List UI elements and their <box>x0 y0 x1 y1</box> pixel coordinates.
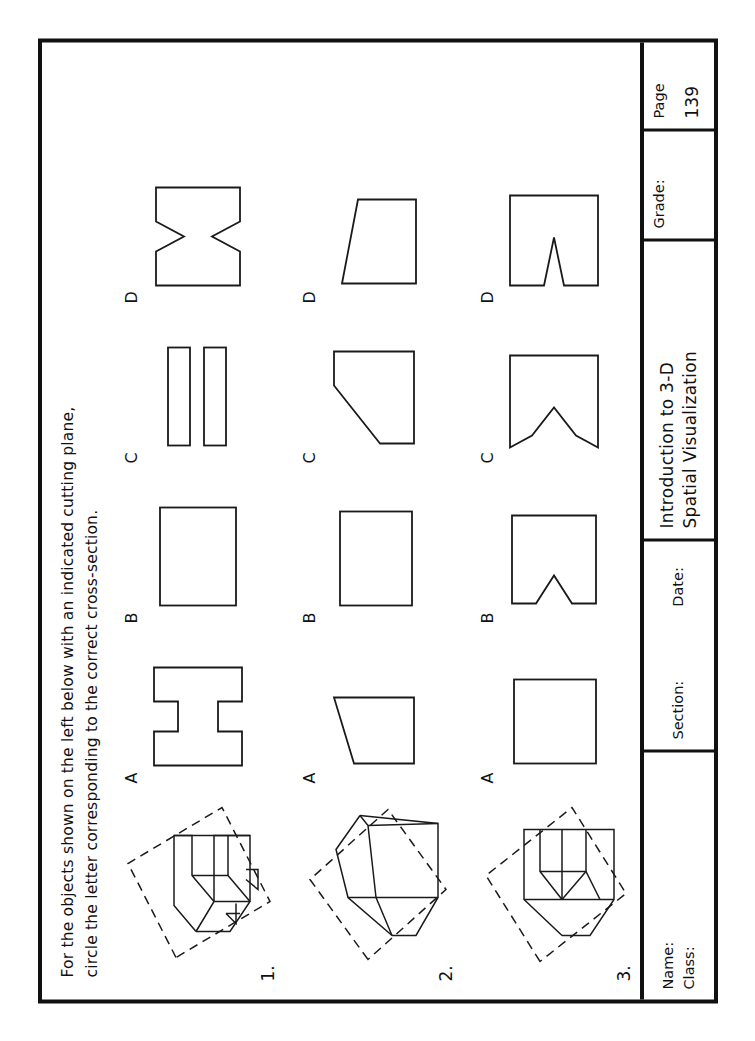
choice-1-d[interactable]: D <box>120 159 280 309</box>
page-number: 139 <box>682 52 702 118</box>
problem-row-1: 1. A <box>114 34 284 999</box>
grade-field-label: Grade: <box>649 141 670 228</box>
choice-letter-1-b: B <box>122 612 141 623</box>
choice-art-3-b <box>502 497 610 615</box>
choice-letter-2-c: C <box>300 452 319 463</box>
choice-2-d[interactable]: D <box>298 159 458 309</box>
title-block-title-cell: Introduction to 3-D Spatial Visualizatio… <box>644 238 714 538</box>
class-field-label: Class: <box>679 762 700 989</box>
title-block-grade-cell[interactable]: Grade: <box>644 128 714 238</box>
choice-letter-3-a: A <box>478 772 497 783</box>
choice-art-1-a <box>146 657 254 775</box>
choice-art-2-a <box>324 657 432 775</box>
choice-letter-3-c: C <box>478 452 497 463</box>
title-block-name-cell[interactable]: Name: Class: <box>644 749 714 999</box>
choice-1-c[interactable]: C <box>120 319 280 469</box>
title-block: Name: Class: Section: Date: Introduction… <box>640 42 714 999</box>
problem-row-3: 3. A <box>470 34 640 999</box>
choice-letter-1-a: A <box>122 772 141 783</box>
choice-letter-2-b: B <box>300 612 319 623</box>
choice-3-c[interactable]: C <box>476 319 636 469</box>
choice-2-a[interactable]: A <box>298 639 458 789</box>
choice-art-2-d <box>324 177 432 295</box>
choice-letter-2-d: D <box>300 291 319 303</box>
choice-1-b[interactable]: B <box>120 479 280 629</box>
choice-letter-2-a: A <box>300 772 319 783</box>
worksheet-title-line-2: Spatial Visualization <box>679 350 702 528</box>
date-field-label: Date: <box>667 567 690 607</box>
choice-3-b[interactable]: B <box>476 479 636 629</box>
choice-letter-1-c: C <box>122 452 141 463</box>
choice-art-2-c <box>324 337 432 455</box>
choice-art-3-a <box>502 657 610 775</box>
page-label: Page <box>649 52 670 118</box>
choice-letter-3-b: B <box>478 612 497 623</box>
choice-letter-1-d: D <box>122 291 141 303</box>
instructions-text: For the objects shown on the left below … <box>56 277 104 977</box>
choice-3-a[interactable]: A <box>476 639 636 789</box>
problem-row-2: 2. A B <box>292 34 462 999</box>
worksheet-page: For the objects shown on the left below … <box>38 38 718 1003</box>
pictorial-object-3 <box>474 795 643 975</box>
section-field-label: Section: <box>667 680 690 739</box>
choice-2-c[interactable]: C <box>298 319 458 469</box>
choice-art-1-b <box>146 497 254 615</box>
choice-2-b[interactable]: B <box>298 479 458 629</box>
choice-art-3-c <box>502 337 610 455</box>
choice-1-a[interactable]: A <box>120 639 280 789</box>
choice-art-1-c <box>146 337 254 455</box>
choice-art-3-d <box>502 177 610 295</box>
pictorial-object-2 <box>296 795 465 975</box>
pictorial-object-1 <box>118 795 287 975</box>
name-field-label: Name: <box>657 762 678 989</box>
choice-art-2-b <box>324 497 432 615</box>
title-block-section-date-cell[interactable]: Section: Date: <box>644 538 714 749</box>
choice-letter-3-d: D <box>478 291 497 303</box>
choice-art-1-d <box>146 177 254 295</box>
worksheet-title-line-1: Introduction to 3-D <box>656 361 679 528</box>
title-block-page-cell: Page 139 <box>644 42 714 128</box>
choice-3-d[interactable]: D <box>476 159 636 309</box>
